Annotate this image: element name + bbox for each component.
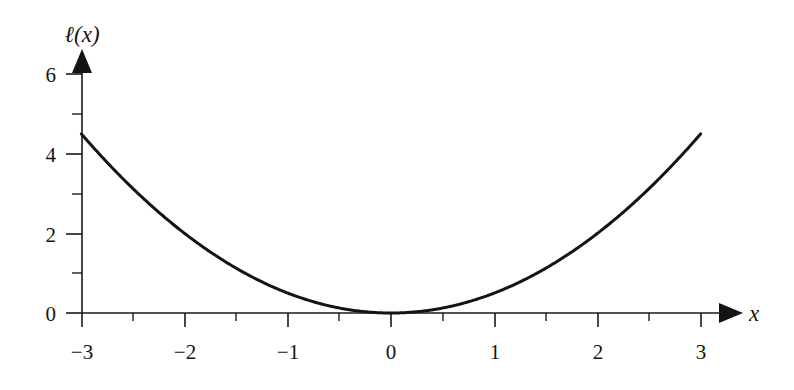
x-tick-label-minus-3: −3 [71, 340, 93, 364]
x-tick-label-3: 3 [696, 340, 707, 364]
x-axis-label: x [748, 301, 760, 326]
y-axis-label: ℓ(x) [64, 22, 99, 47]
y-tick-label-4: 4 [46, 143, 57, 167]
plot-canvas: 0 2 4 6 −3 −2 −1 0 1 2 3 ℓ(x) x [0, 0, 794, 390]
parabola-figure: 0 2 4 6 −3 −2 −1 0 1 2 3 ℓ(x) x [0, 0, 794, 390]
y-tick-label-0: 0 [46, 302, 57, 326]
y-axis-minor-ticks [72, 114, 82, 273]
x-axis-major-ticks [82, 313, 701, 327]
y-tick-label-6: 6 [46, 63, 57, 87]
parabola-curve [81, 134, 700, 313]
y-axis-arrowhead-icon [72, 49, 92, 73]
x-tick-label-minus-1: −1 [277, 340, 299, 364]
x-tick-label-1: 1 [490, 340, 501, 364]
x-tick-label-0: 0 [386, 340, 397, 364]
x-tick-label-2: 2 [593, 340, 604, 364]
x-tick-label-minus-2: −2 [174, 340, 196, 364]
y-tick-label-2: 2 [46, 223, 57, 247]
x-axis-arrowhead-icon [719, 303, 743, 323]
